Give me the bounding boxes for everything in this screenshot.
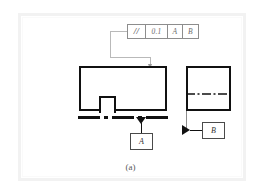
front-view-outline <box>79 66 167 111</box>
leader-segment-horizontal <box>110 31 128 32</box>
datum-b-label: B <box>211 126 216 135</box>
datum-b-label-box[interactable]: B <box>202 122 225 139</box>
feature-control-frame[interactable]: // 0.1 A B <box>127 24 199 39</box>
datum-a-label-box[interactable]: A <box>130 133 153 150</box>
side-view-outline <box>186 66 231 111</box>
datum-a-chain-line <box>78 116 168 119</box>
datum-b-triangle-icon <box>182 125 190 135</box>
figure-caption: (a) <box>0 162 261 172</box>
figure-canvas: // 0.1 A B A B (a) <box>0 0 261 196</box>
side-view-centerline <box>186 93 231 95</box>
parallelism-symbol-icon: // <box>128 25 146 38</box>
leader-segment-vertical <box>110 31 111 57</box>
secondary-datum-cell: B <box>183 25 198 38</box>
primary-datum-cell: A <box>168 25 183 38</box>
leader-segment-horizontal-2 <box>110 57 150 58</box>
front-view-notch-gap <box>101 108 114 112</box>
tolerance-value-cell: 0.1 <box>146 25 168 38</box>
datum-a-label: A <box>139 137 144 146</box>
